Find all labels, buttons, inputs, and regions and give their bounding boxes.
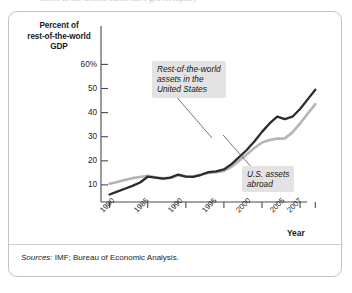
figure-card: Percent of rest-of-the-world GDP 60% 50 … [8,11,342,277]
annotation-us-abroad: U.S. assets abroad [242,166,294,192]
annotation-us-abroad-line-1: U.S. assets [247,169,289,179]
y-tick-label-30: 30 [67,132,97,141]
annotation-rest-of-world-line-3: United States [157,84,221,94]
source-text: IMF; Bureau of Economic Analysis. [55,253,179,262]
source-note: Sources: IMF; Bureau of Economic Analysi… [21,253,179,262]
annotation-rest-of-world-line-2: assets in the [157,74,221,84]
chart-plot-area: Percent of rest-of-the-world GDP 60% 50 … [9,12,343,244]
y-tick-label-50: 50 [67,84,97,93]
source-divider [9,244,343,245]
y-tick-label-20: 20 [67,156,97,165]
y-axis-title-line-2: rest-of-the-world [13,32,105,43]
y-axis-title-line-3: GDP [13,42,105,53]
y-axis-title-line-1: Percent of [13,21,105,32]
cut-off-caption-text: assets in the United States have grown r… [40,0,197,3]
cut-off-caption-strip: assets in the United States have grown r… [0,0,352,10]
annotation-us-abroad-line-2: abroad [247,179,289,189]
annotation-rest-of-world-line-1: Rest-of-the-world [157,64,221,74]
y-tick-label-40: 40 [67,108,97,117]
leader-line-rest-of-world [174,94,212,138]
y-axis-title: Percent of rest-of-the-world GDP [13,21,105,53]
y-axis-ticks [101,64,108,184]
y-tick-label-60: 60% [67,60,97,69]
y-tick-label-10: 10 [67,180,97,189]
x-axis-title: Year [287,228,305,238]
annotation-rest-of-world: Rest-of-the-world assets in the United S… [152,61,226,98]
source-label: Sources: [21,253,53,262]
